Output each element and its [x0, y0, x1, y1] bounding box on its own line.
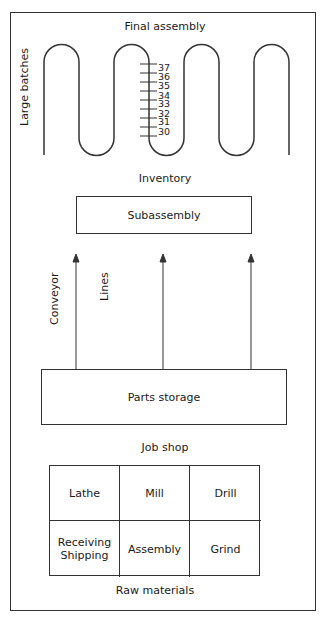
cell-lathe: Lathe [50, 466, 120, 521]
tick-label: 30 [158, 127, 170, 136]
tick-label: 33 [158, 99, 170, 108]
cell-receiving-shipping: Receiving Shipping [50, 521, 120, 577]
conveyor-label: Conveyor [48, 273, 61, 325]
tick-label: 31 [158, 117, 170, 126]
parts-storage-box: Parts storage [41, 369, 287, 425]
cell-grind: Grind [190, 521, 261, 577]
lines-label: Lines [98, 272, 111, 301]
subassembly-label: Subassembly [127, 209, 200, 222]
job-shop-label: Job shop [0, 441, 330, 454]
parts-storage-label: Parts storage [128, 391, 201, 404]
inventory-label: Inventory [0, 172, 330, 185]
final-assembly-title: Final assembly [0, 20, 330, 33]
large-batches-label: Large batches [18, 48, 31, 126]
cell-drill: Drill [190, 466, 261, 521]
job-shop-grid: Lathe Mill Drill Receiving Shipping Asse… [49, 465, 260, 576]
tick-label: 35 [158, 81, 170, 90]
raw-materials-label: Raw materials [0, 584, 310, 597]
cell-assembly: Assembly [120, 521, 190, 577]
cell-mill: Mill [120, 466, 190, 521]
subassembly-box: Subassembly [76, 196, 252, 234]
